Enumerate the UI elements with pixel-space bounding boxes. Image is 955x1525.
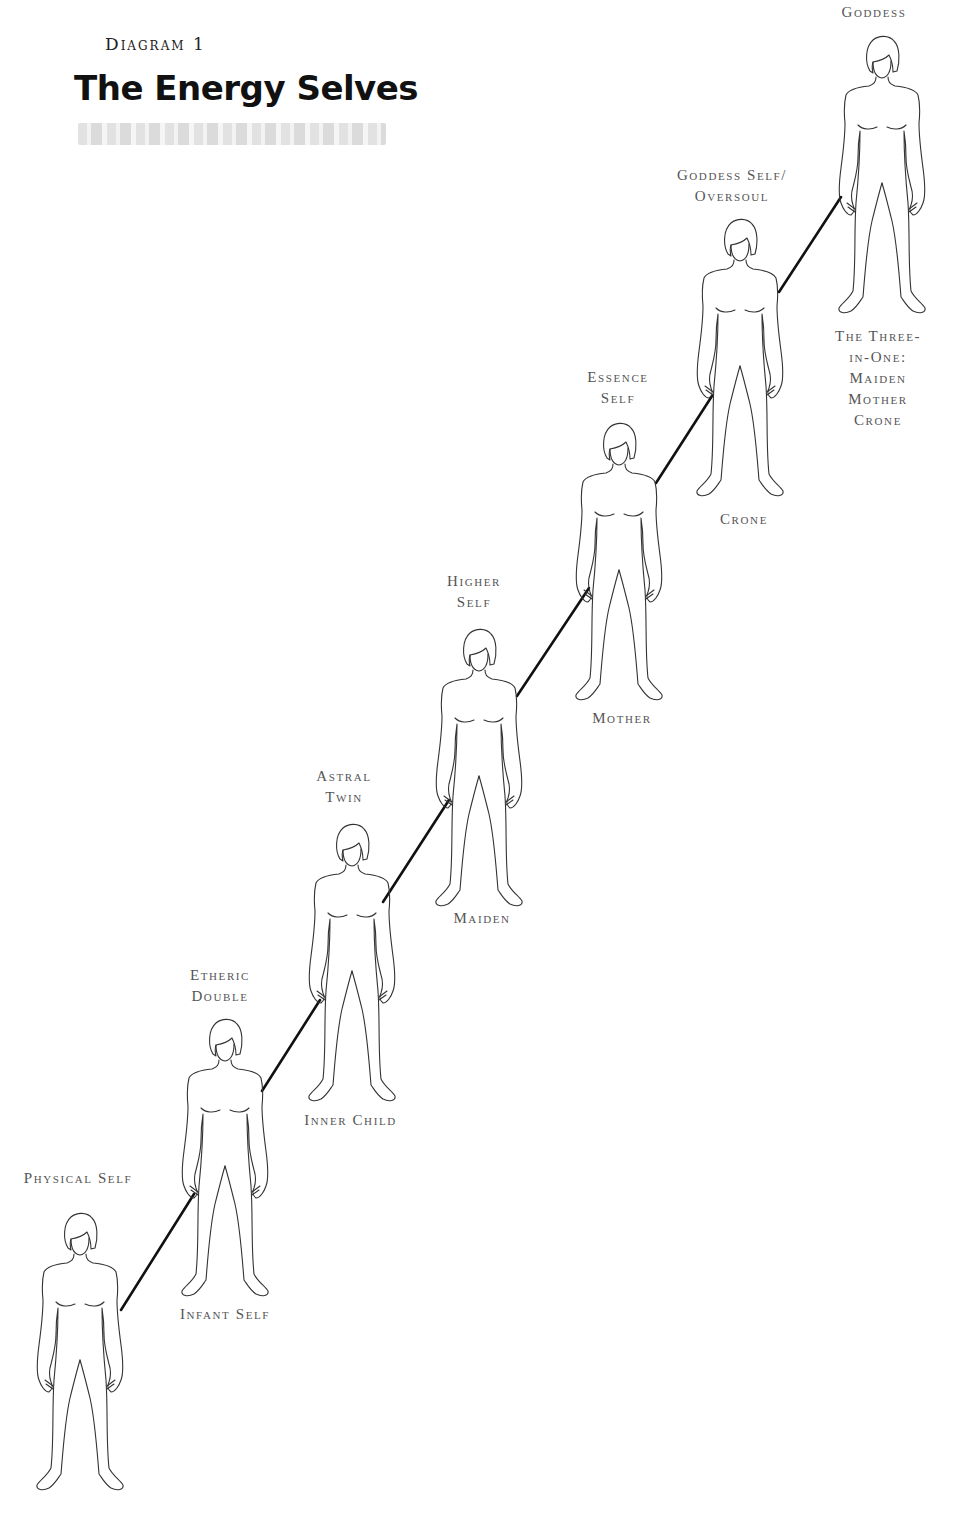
body-left-outline <box>697 260 740 496</box>
figure-essence-self <box>564 420 674 705</box>
label-goddess-self: Goddess Self/ <box>662 165 802 186</box>
hand-detail-right <box>767 386 775 395</box>
hair-outline <box>210 1019 242 1056</box>
label-double: Double <box>160 986 280 1007</box>
diagram-number: Diagram 1 <box>105 34 206 54</box>
face-outline <box>873 61 891 78</box>
hand-detail-left <box>317 991 325 1000</box>
label-three-in-one-2: in-One: <box>818 347 938 368</box>
figure-physical-self <box>25 1210 135 1495</box>
face-outline <box>470 654 488 671</box>
face-outline <box>216 1044 234 1061</box>
chest-line-right <box>624 512 643 516</box>
chest-line-right <box>230 1108 249 1112</box>
body-right-outline <box>619 464 662 700</box>
hand-detail-left <box>705 386 713 395</box>
body-left-outline <box>436 670 479 906</box>
label-etheric: Etheric <box>160 965 280 986</box>
chest-line-right <box>357 913 376 917</box>
chest-line-right <box>484 718 503 722</box>
label-self-essence: Self <box>558 388 678 409</box>
chest-line-right <box>745 308 764 312</box>
label-higher: Higher <box>414 571 534 592</box>
label-three-in-one-1: The Three- <box>818 326 938 347</box>
hair-outline <box>464 629 496 666</box>
label-goddess: Goddess <box>814 2 934 23</box>
figure-etheric-double <box>170 1016 280 1301</box>
label-three-in-one-5: Crone <box>818 410 938 431</box>
chest-line-left <box>595 512 614 516</box>
body-left-outline <box>182 1060 225 1296</box>
figure-goddess <box>827 33 937 318</box>
label-three-in-one-3: Maiden <box>818 368 938 389</box>
label-mother: Mother <box>562 708 682 729</box>
hand-detail-left <box>190 1186 198 1195</box>
decorative-smear <box>78 123 386 145</box>
figure-goddess-self <box>685 216 795 501</box>
label-maiden: Maiden <box>422 908 542 929</box>
label-oversoul: Oversoul <box>662 186 802 207</box>
body-left-outline <box>309 865 352 1101</box>
face-outline <box>71 1238 89 1255</box>
label-twin: Twin <box>284 787 404 808</box>
hair-outline <box>867 36 899 73</box>
body-right-outline <box>740 260 783 496</box>
hair-outline <box>65 1213 97 1250</box>
chest-line-left <box>56 1302 75 1306</box>
hair-outline <box>337 824 369 861</box>
label-crone: Crone <box>684 509 804 530</box>
hand-detail-left <box>444 796 452 805</box>
hand-detail-right <box>646 590 654 599</box>
figure-higher-self <box>424 626 534 911</box>
hand-detail-left <box>584 590 592 599</box>
page-title: The Energy Selves <box>74 68 418 108</box>
chest-line-left <box>201 1108 220 1112</box>
chest-line-left <box>455 718 474 722</box>
chest-line-right <box>887 125 906 129</box>
chest-line-right <box>85 1302 104 1306</box>
chest-line-left <box>328 913 347 917</box>
hair-outline <box>725 219 757 256</box>
hand-detail-right <box>506 796 514 805</box>
body-right-outline <box>479 670 522 906</box>
body-right-outline <box>882 77 925 313</box>
label-astral: Astral <box>284 766 404 787</box>
body-left-outline <box>839 77 882 313</box>
face-outline <box>731 244 749 261</box>
hand-detail-right <box>379 991 387 1000</box>
label-self-higher: Self <box>414 592 534 613</box>
hair-outline <box>604 423 636 460</box>
label-physical-self: Physical Self <box>18 1168 138 1189</box>
body-right-outline <box>80 1254 123 1490</box>
label-essence: Essence <box>558 367 678 388</box>
body-left-outline <box>37 1254 80 1490</box>
body-left-outline <box>576 464 619 700</box>
face-outline <box>610 448 628 465</box>
hand-detail-left <box>45 1380 53 1389</box>
body-right-outline <box>352 865 395 1101</box>
hand-detail-left <box>847 203 855 212</box>
chest-line-left <box>858 125 877 129</box>
face-outline <box>343 849 361 866</box>
chest-line-left <box>716 308 735 312</box>
label-inner-child: Inner Child <box>288 1110 413 1131</box>
label-infant-self: Infant Self <box>160 1304 290 1325</box>
figure-astral-twin <box>297 821 407 1106</box>
hand-detail-right <box>107 1380 115 1389</box>
hand-detail-right <box>252 1186 260 1195</box>
body-right-outline <box>225 1060 268 1296</box>
label-three-in-one-4: Mother <box>818 389 938 410</box>
hand-detail-right <box>909 203 917 212</box>
